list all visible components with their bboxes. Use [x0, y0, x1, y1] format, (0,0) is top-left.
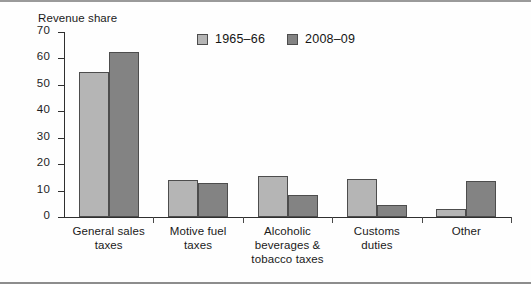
y-tick-label: 40: [20, 103, 50, 115]
x-category-label-line: taxes: [64, 238, 153, 252]
x-tick-mark: [511, 217, 512, 223]
x-category-label: Other: [422, 224, 511, 238]
bar: [466, 181, 496, 217]
y-tick-mark: [58, 217, 64, 218]
x-tick-mark: [243, 217, 244, 223]
bar: [168, 180, 198, 217]
bar: [198, 183, 228, 217]
figure-frame: Revenue share 1965–66 2008–09 0102030405…: [0, 0, 531, 284]
x-tick-mark: [422, 217, 423, 223]
x-category-label: Motive fueltaxes: [153, 224, 242, 252]
bar: [79, 72, 109, 217]
x-tick-mark: [153, 217, 154, 223]
y-tick-label: 20: [20, 156, 50, 168]
x-category-label: General salestaxes: [64, 224, 153, 252]
y-tick-label: 70: [20, 24, 50, 36]
x-category-label: Customsduties: [332, 224, 421, 252]
x-category-label-line: General sales: [64, 224, 153, 238]
bar: [436, 209, 466, 217]
y-axis-title: Revenue share: [38, 12, 117, 24]
x-category-label-line: tobacco taxes: [243, 252, 332, 266]
x-category-label: Alcoholicbeverages &tobacco taxes: [243, 224, 332, 266]
x-category-label-line: Motive fuel: [153, 224, 242, 238]
x-category-label-line: Other: [422, 224, 511, 238]
x-category-label-line: taxes: [153, 238, 242, 252]
bar: [347, 179, 377, 217]
y-tick-label: 60: [20, 50, 50, 62]
x-category-label-line: duties: [332, 238, 421, 252]
x-category-label-line: Alcoholic: [243, 224, 332, 238]
plot-area: 010203040506070 General salestaxesMotive…: [64, 32, 511, 217]
bar: [258, 176, 288, 217]
y-tick-label: 30: [20, 130, 50, 142]
x-category-label-line: beverages &: [243, 238, 332, 252]
bar: [288, 195, 318, 217]
y-tick-label: 10: [20, 183, 50, 195]
x-tick-mark: [332, 217, 333, 223]
bar: [109, 52, 139, 217]
bars-layer: [64, 32, 511, 217]
bar: [377, 205, 407, 217]
y-tick-label: 50: [20, 77, 50, 89]
y-tick-label: 0: [20, 209, 50, 221]
x-category-label-line: Customs: [332, 224, 421, 238]
x-axis-line: [64, 217, 511, 218]
